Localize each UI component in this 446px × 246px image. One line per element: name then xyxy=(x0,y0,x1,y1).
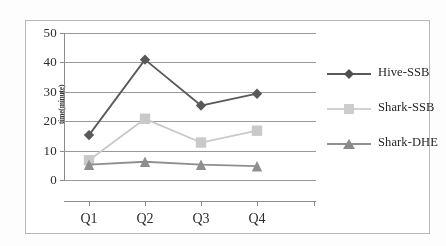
legend-marker-triangle-icon xyxy=(326,137,372,151)
legend-label-shark-dhe: Shark-DHE xyxy=(378,135,438,150)
x-axis-label-q1: Q1 xyxy=(80,211,97,227)
legend-item-hive-ssb: Hive-SSB xyxy=(326,59,446,94)
y-tick-label-20: 20 xyxy=(44,113,57,129)
x-tick-end xyxy=(314,201,315,206)
legend-marker-square-icon xyxy=(326,102,372,116)
legend-label-shark-ssb: Shark-SSB xyxy=(378,100,434,115)
legend-marker-diamond-icon xyxy=(326,67,372,81)
line-chart-figure: time(minute) 50 40 30 20 10 0 xyxy=(0,0,446,246)
series-line xyxy=(89,119,257,160)
x-axis-label-q4: Q4 xyxy=(248,211,265,227)
x-axis-line xyxy=(64,201,316,202)
legend-item-shark-dhe: Shark-DHE xyxy=(326,129,446,164)
series-line xyxy=(89,162,257,166)
data-point-marker xyxy=(140,114,150,124)
legend-label-hive-ssb: Hive-SSB xyxy=(378,65,430,80)
x-axis-label-q3: Q3 xyxy=(192,211,209,227)
x-tick-q1 xyxy=(89,201,90,206)
series-shark-dhe xyxy=(84,157,262,172)
data-series-layer xyxy=(64,33,316,181)
data-point-marker xyxy=(252,125,262,135)
y-tick-label-30: 30 xyxy=(44,84,57,100)
data-point-marker xyxy=(252,88,262,98)
legend-item-shark-ssb: Shark-SSB xyxy=(326,94,446,129)
x-tick-q2 xyxy=(145,201,146,206)
series-hive-ssb xyxy=(84,54,262,140)
y-tick-label-50: 50 xyxy=(44,25,57,41)
chart-border-frame: time(minute) 50 40 30 20 10 0 xyxy=(25,20,430,234)
x-tick-q3 xyxy=(201,201,202,206)
x-axis-label-q2: Q2 xyxy=(136,211,153,227)
y-tick-label-10: 10 xyxy=(44,143,57,159)
data-point-marker xyxy=(196,137,206,147)
y-tick-label-0: 0 xyxy=(50,172,57,188)
series-shark-ssb xyxy=(84,114,262,166)
x-tick-q4 xyxy=(257,201,258,206)
y-tick-label-40: 40 xyxy=(44,54,57,70)
series-line xyxy=(89,60,257,135)
chart-legend: Hive-SSB Shark-SSB Shark-DHE xyxy=(326,59,446,164)
